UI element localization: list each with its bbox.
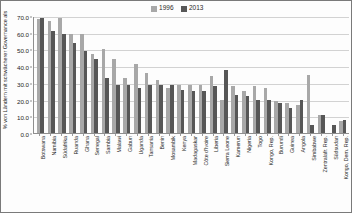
y-tick-mark — [30, 117, 33, 118]
x-label-cell: Madagaskar — [186, 136, 197, 212]
bar-group — [154, 17, 165, 133]
y-tick-label: 30.0 — [17, 80, 29, 87]
bar-chart-container: 1996 2013 % von Ländern mit schwächerer … — [0, 0, 352, 213]
y-tick-mark — [30, 134, 33, 135]
bar-group — [316, 17, 327, 133]
x-label-cell: Simbabwe — [305, 136, 316, 212]
x-label-cell: Senegal — [88, 136, 99, 212]
bar-2013 — [289, 108, 293, 133]
bar-2013 — [224, 70, 228, 134]
bar-group — [67, 17, 78, 133]
bar-group — [186, 17, 197, 133]
bar-2013 — [235, 95, 239, 133]
bar-2013 — [105, 78, 109, 133]
x-label-cell: Mosambik — [164, 136, 175, 212]
x-label-cell: Nigeria — [240, 136, 251, 212]
x-label-cell: Malawi — [110, 136, 121, 212]
bar-2013 — [84, 51, 88, 133]
legend-item-1996: 1996 — [151, 5, 174, 12]
bar-group — [46, 17, 57, 133]
bar-2013 — [343, 120, 347, 133]
bar-2013 — [256, 100, 260, 133]
chart-legend: 1996 2013 — [1, 3, 352, 14]
plot-area — [33, 17, 349, 134]
bar-group — [121, 17, 132, 133]
x-label-cell: Sambia — [99, 136, 110, 212]
y-tick-label: 20.0 — [17, 97, 29, 104]
bar-group — [35, 17, 46, 133]
x-label-cell: Ghana — [77, 136, 88, 212]
bar-group — [305, 17, 316, 133]
bar-2013 — [213, 86, 217, 133]
bar-2013 — [159, 85, 163, 133]
bar-group — [143, 17, 154, 133]
y-axis-ticks: 70.060.050.040.030.020.010.00.0 — [1, 17, 32, 134]
x-label-cell: Gabun — [121, 136, 132, 212]
y-tick-label: 10.0 — [17, 114, 29, 121]
y-tick-mark — [30, 100, 33, 101]
bar-group — [337, 17, 348, 133]
bar-2013 — [170, 85, 174, 133]
bar-group — [240, 17, 251, 133]
x-label-cell: Burundi — [272, 136, 283, 212]
bar-2013 — [116, 85, 120, 133]
bar-2013 — [138, 88, 142, 133]
x-label-cell: Liberia — [207, 136, 218, 212]
x-label-cell: Südafrika — [56, 136, 67, 212]
bar-group — [251, 17, 262, 133]
bar-2013 — [300, 100, 304, 133]
x-label-cell: Côte d'Ivoire — [196, 136, 207, 212]
bar-2013 — [278, 103, 282, 133]
legend-swatch-2013 — [181, 6, 187, 12]
x-label-cell: Benin — [153, 136, 164, 212]
y-tick-mark — [30, 83, 33, 84]
bar-group — [208, 17, 219, 133]
x-label-cell: Tansania — [142, 136, 153, 212]
bar-group — [132, 17, 143, 133]
bar-groups — [34, 17, 349, 133]
legend-label-1996: 1996 — [159, 5, 173, 12]
x-label-cell: Zentralafr. Rep. — [316, 136, 327, 212]
bar-2013 — [51, 31, 55, 133]
x-label-cell: Südsudan — [326, 136, 337, 212]
bar-2013 — [321, 115, 325, 133]
bar-group — [111, 17, 122, 133]
y-tick-mark — [30, 17, 33, 18]
x-label-cell: Guinea — [283, 136, 294, 212]
bar-group — [273, 17, 284, 133]
bar-2013 — [267, 100, 271, 133]
y-tick-mark — [30, 33, 33, 34]
x-label-cell: Kongo, Rep. — [261, 136, 272, 212]
bar-group — [89, 17, 100, 133]
bar-2013 — [94, 59, 98, 133]
bar-2013 — [62, 34, 66, 133]
x-label-cell: Kenya — [175, 136, 186, 212]
bar-group — [262, 17, 273, 133]
y-tick-mark — [30, 50, 33, 51]
bar-group — [57, 17, 68, 133]
bar-group — [327, 17, 338, 133]
bar-2013 — [181, 90, 185, 133]
bar-2013 — [310, 125, 314, 133]
y-tick-label: 60.0 — [17, 30, 29, 37]
y-tick-label: 0.0 — [20, 131, 29, 138]
bar-2013 — [40, 18, 44, 133]
bar-group — [283, 17, 294, 133]
legend-item-2013: 2013 — [181, 5, 204, 12]
bar-2013 — [332, 125, 336, 133]
y-tick-label: 70.0 — [17, 14, 29, 21]
y-tick-label: 40.0 — [17, 64, 29, 71]
x-label-cell: Angola — [294, 136, 305, 212]
x-label-cell: Sierra Leone — [218, 136, 229, 212]
bar-group — [175, 17, 186, 133]
x-label-cell: Ruanda — [66, 136, 77, 212]
legend-swatch-1996 — [151, 6, 157, 12]
bar-group — [165, 17, 176, 133]
x-label-cell: Namibia — [45, 136, 56, 212]
legend-label-2013: 2013 — [189, 5, 203, 12]
bar-2013 — [202, 91, 206, 133]
bar-group — [294, 17, 305, 133]
x-label-cell: Uganda — [131, 136, 142, 212]
bar-2013 — [192, 91, 196, 133]
x-tick-label: Kongo, Dem. Rep. — [344, 136, 350, 180]
